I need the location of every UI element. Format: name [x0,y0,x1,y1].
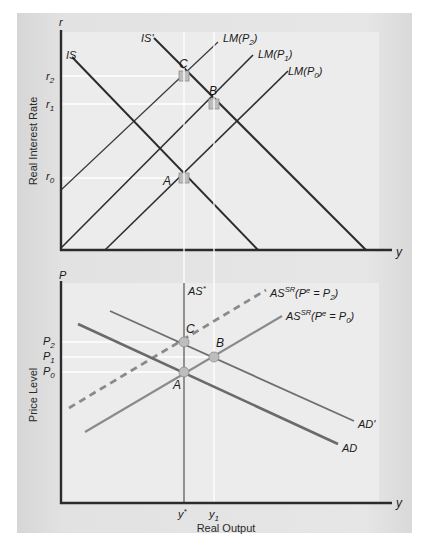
y-axis-symbol-bottom: y [395,496,403,510]
p-axis-symbol: P [59,269,67,281]
is-lm-panel [60,30,392,251]
point-a-bottom-label: A [172,378,181,392]
is-lm-as-ad-figure: r y Real Interest Rate r2 r1 r0 IS IS' L… [0,0,422,551]
is-label: IS [66,49,77,61]
is-prime-label: IS' [141,32,154,44]
point-a-top-label: A [162,174,171,188]
price-level-title: Price Level [27,368,39,422]
is-lm-plot-area [61,32,379,250]
point-c-bottom-label: C [186,322,195,336]
tick-y1: y1 [208,508,219,523]
point-b-bottom [209,352,219,362]
tick-p0: P0 [43,365,55,380]
real-output-title: Real Output [197,522,256,534]
point-c-top-label: C [179,57,188,71]
tick-p2: P2 [43,335,55,350]
point-b-top-label: B [209,84,217,98]
tick-r1: r1 [46,98,54,113]
point-b-bottom-label: B [216,336,224,350]
point-c-bottom [179,337,189,347]
real-interest-rate-title: Real Interest Rate [27,97,39,186]
r-axis-symbol: r [59,16,64,28]
tick-p1: P1 [43,350,55,365]
tick-r0: r0 [46,170,55,185]
y-axis-symbol-top: y [395,245,403,259]
ad-label: AD [341,442,357,454]
point-a-bottom [179,367,189,377]
ad-prime-label: AD' [357,418,376,430]
tick-r2: r2 [46,70,55,85]
tick-y-star: y* [177,507,188,520]
